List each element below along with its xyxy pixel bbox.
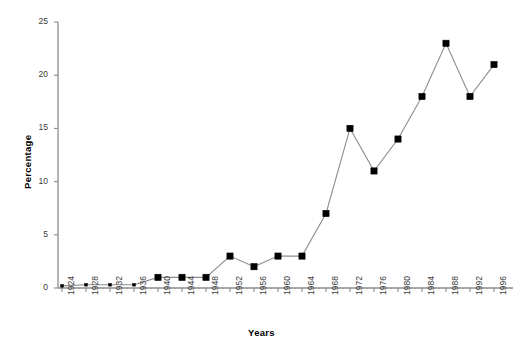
x-tick-label: 1980 (402, 276, 412, 295)
data-point-marker (323, 210, 329, 216)
data-point-marker (395, 136, 401, 142)
data-point-marker (299, 253, 305, 259)
data-point-marker (443, 40, 449, 46)
data-point-marker (467, 93, 473, 99)
data-point-marker (203, 274, 209, 280)
data-point-marker (371, 168, 377, 174)
x-tick-label: 1956 (258, 276, 268, 295)
x-tick-label: 1936 (138, 276, 148, 295)
y-tick-label: 5 (26, 229, 48, 239)
x-tick-label: 1924 (66, 276, 76, 295)
data-point-marker (251, 264, 257, 270)
data-point-marker (419, 93, 425, 99)
line-chart: Percentage Years 0510152025 192419281932… (0, 0, 523, 350)
y-tick-label: 25 (26, 16, 48, 26)
x-tick-label: 1928 (90, 276, 100, 295)
x-tick-label: 1988 (450, 276, 460, 295)
x-tick-label: 1972 (354, 276, 364, 295)
data-point-marker (275, 253, 281, 259)
x-tick-label: 1996 (498, 276, 508, 295)
data-point-marker (347, 125, 353, 131)
data-point-marker (227, 253, 233, 259)
x-tick-label: 1944 (186, 276, 196, 295)
data-point-marker (491, 61, 497, 67)
data-point-marker (133, 284, 136, 287)
x-tick-label: 1948 (210, 276, 220, 295)
data-point-marker (109, 284, 112, 287)
plot-area (0, 0, 523, 350)
y-tick-label: 0 (26, 282, 48, 292)
x-tick-label: 1964 (306, 276, 316, 295)
x-tick-label: 1960 (282, 276, 292, 295)
x-tick-label: 1984 (426, 276, 436, 295)
x-tick-label: 1976 (378, 276, 388, 295)
y-tick-label: 15 (26, 122, 48, 132)
x-tick-label: 1940 (162, 276, 172, 295)
data-line (62, 43, 494, 286)
x-tick-label: 1968 (330, 276, 340, 295)
data-point-marker (155, 274, 161, 280)
data-point-marker (179, 274, 185, 280)
y-tick-label: 20 (26, 69, 48, 79)
y-tick-label: 10 (26, 176, 48, 186)
x-tick-label: 1992 (474, 276, 484, 295)
data-point-marker (61, 285, 64, 288)
data-point-marker (85, 284, 88, 287)
x-tick-label: 1932 (114, 276, 124, 295)
x-tick-label: 1952 (234, 276, 244, 295)
x-axis-title: Years (0, 327, 523, 338)
